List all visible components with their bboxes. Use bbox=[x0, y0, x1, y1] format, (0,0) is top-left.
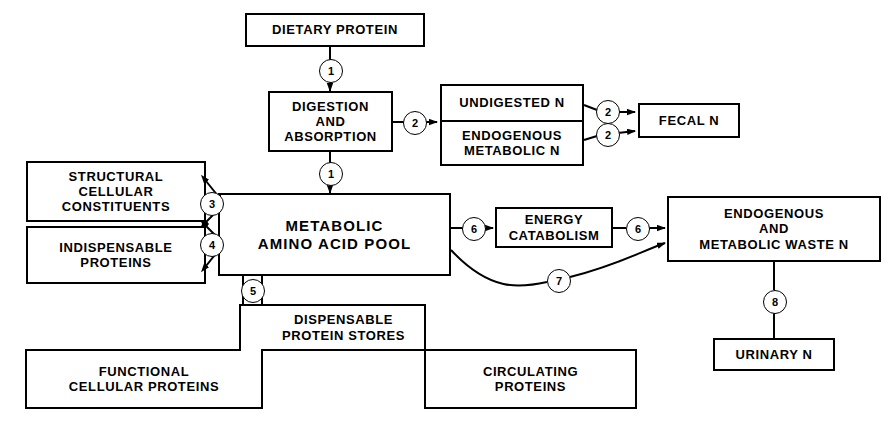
marker-8: 8 bbox=[763, 290, 787, 314]
diagram-canvas: DIETARY PROTEIN DIGESTION AND ABSORPTION… bbox=[0, 0, 892, 425]
marker-label: 2 bbox=[605, 106, 611, 118]
marker-7: 7 bbox=[547, 269, 571, 293]
marker-1-top: 1 bbox=[319, 59, 343, 83]
node-fecal-n[interactable]: FECAL N bbox=[638, 103, 740, 138]
marker-4: 4 bbox=[200, 233, 224, 257]
marker-2-fecal-lower: 2 bbox=[596, 123, 620, 147]
node-metabolic-amino-acid-pool[interactable]: METABOLIC AMINO ACID POOL bbox=[218, 193, 451, 276]
node-label: FUNCTIONAL CELLULAR PROTEINS bbox=[69, 364, 219, 395]
node-circulating-proteins[interactable]: CIRCULATING PROTEINS bbox=[425, 350, 636, 408]
node-structural-cellular-constituents[interactable]: STRUCTURAL CELLULAR CONSTITUENTS bbox=[26, 161, 206, 222]
marker-label: 6 bbox=[635, 223, 641, 235]
node-label: INDISPENSABLE PROTEINS bbox=[59, 240, 172, 271]
node-label: DIGESTION AND ABSORPTION bbox=[284, 99, 377, 145]
marker-label: 5 bbox=[250, 285, 256, 297]
node-label: DISPENSABLE PROTEIN STORES bbox=[282, 312, 405, 343]
marker-1-pool: 1 bbox=[319, 162, 343, 186]
node-label: DIETARY PROTEIN bbox=[272, 22, 398, 37]
connector-2-fecal-lower-arrow bbox=[618, 131, 635, 133]
marker-3: 3 bbox=[200, 192, 224, 216]
marker-label: 2 bbox=[412, 117, 418, 129]
node-endogenous-metabolic-n[interactable]: ENDOGENOUS METABOLIC N bbox=[440, 122, 584, 166]
node-label: ENDOGENOUS METABOLIC N bbox=[462, 128, 562, 159]
marker-5: 5 bbox=[241, 279, 265, 303]
marker-label: 8 bbox=[772, 296, 778, 308]
node-indispensable-proteins[interactable]: INDISPENSABLE PROTEINS bbox=[26, 226, 206, 284]
node-label: UNDIGESTED N bbox=[459, 95, 564, 110]
node-label: ENDOGENOUS AND METABOLIC WASTE N bbox=[699, 206, 848, 252]
node-label: URINARY N bbox=[736, 347, 813, 362]
marker-label: 6 bbox=[471, 223, 477, 235]
connector-7-right bbox=[570, 243, 665, 277]
node-dispensable-protein-stores[interactable]: DISPENSABLE PROTEIN STORES bbox=[262, 305, 425, 350]
node-label: STRUCTURAL CELLULAR CONSTITUENTS bbox=[62, 169, 170, 215]
node-label: METABOLIC AMINO ACID POOL bbox=[258, 217, 411, 252]
node-energy-catabolism[interactable]: ENERGY CATABOLISM bbox=[495, 207, 613, 248]
connector-7-left bbox=[451, 250, 547, 286]
marker-label: 2 bbox=[605, 129, 611, 141]
node-label: CIRCULATING PROTEINS bbox=[483, 364, 578, 395]
connector-2-fecal-lower bbox=[584, 136, 597, 140]
marker-2-undigested: 2 bbox=[403, 111, 427, 135]
marker-label: 3 bbox=[209, 198, 215, 210]
node-label: FECAL N bbox=[659, 113, 719, 128]
node-functional-cellular-proteins[interactable]: FUNCTIONAL CELLULAR PROTEINS bbox=[26, 350, 262, 408]
node-digestion-and-absorption[interactable]: DIGESTION AND ABSORPTION bbox=[268, 91, 393, 152]
node-endogenous-and-metabolic-waste-n[interactable]: ENDOGENOUS AND METABOLIC WASTE N bbox=[667, 196, 881, 262]
marker-6-right: 6 bbox=[626, 217, 650, 241]
marker-label: 1 bbox=[328, 168, 334, 180]
node-urinary-n[interactable]: URINARY N bbox=[713, 338, 835, 371]
marker-label: 4 bbox=[209, 239, 215, 251]
node-undigested-n[interactable]: UNDIGESTED N bbox=[440, 84, 584, 122]
node-label: ENERGY CATABOLISM bbox=[509, 212, 600, 243]
connector-2-fecal-upper bbox=[584, 105, 597, 110]
marker-label: 1 bbox=[328, 65, 334, 77]
marker-label: 7 bbox=[556, 275, 562, 287]
marker-2-fecal-upper: 2 bbox=[596, 100, 620, 124]
marker-6-left: 6 bbox=[462, 217, 486, 241]
node-dietary-protein[interactable]: DIETARY PROTEIN bbox=[245, 13, 425, 47]
